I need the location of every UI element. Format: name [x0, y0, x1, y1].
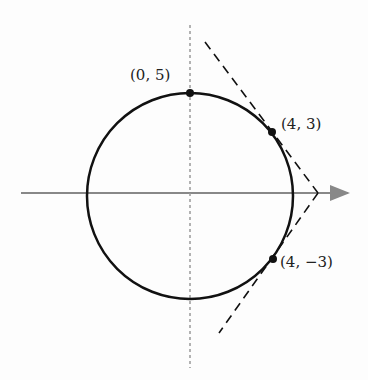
label-0-5: (0, 5) [130, 66, 170, 84]
circle-diagram: (0, 5) (4, 3) (4, −3) [0, 0, 368, 380]
point-4-3 [268, 128, 276, 136]
point-4-neg3 [269, 255, 277, 263]
label-4-3: (4, 3) [281, 115, 321, 133]
label-4-neg3: (4, −3) [280, 253, 333, 271]
diagram-canvas: (0, 5) (4, 3) (4, −3) [0, 0, 368, 380]
point-0-5 [186, 89, 194, 97]
